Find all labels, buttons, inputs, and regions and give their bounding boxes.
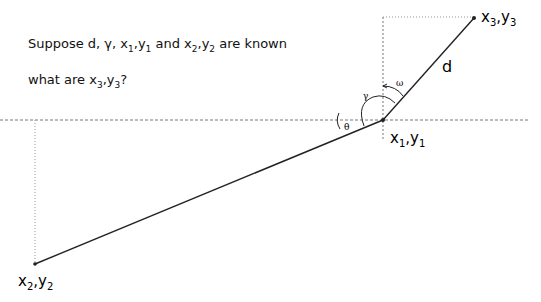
theta-label: θ — [344, 122, 349, 132]
distance-label: d — [442, 57, 452, 76]
point-p3 — [472, 16, 476, 20]
p2-label: x2,y2 — [18, 272, 53, 292]
text: x — [390, 129, 399, 147]
theta-arc — [337, 113, 340, 129]
gamma-label: γ — [363, 91, 368, 101]
text: y — [410, 129, 419, 147]
omega-label: ω — [396, 78, 403, 88]
p1-label: x1,y1 — [390, 129, 425, 149]
geometry-diagram: θ γ ω d x1,y1 x2,y2 x3,y3 — [0, 0, 541, 302]
text: x — [18, 272, 27, 290]
text: y — [501, 8, 510, 26]
text: x — [481, 8, 490, 26]
point-p1 — [381, 118, 385, 122]
p3-label: x3,y3 — [481, 8, 516, 28]
text: y — [38, 272, 47, 290]
point-p2 — [33, 262, 37, 266]
segment-p1-p3 — [383, 18, 474, 120]
subscript: 2 — [47, 281, 53, 292]
subscript: 3 — [510, 17, 516, 28]
subscript: 1 — [419, 138, 425, 149]
segment-p2-p1 — [35, 120, 383, 264]
